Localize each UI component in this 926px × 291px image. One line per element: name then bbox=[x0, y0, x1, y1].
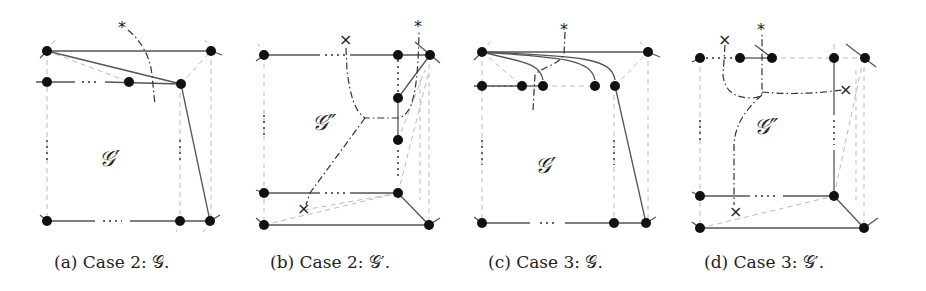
region-label: 𝒢″ bbox=[754, 114, 779, 139]
node bbox=[393, 188, 403, 198]
node bbox=[590, 81, 600, 91]
cross-marker: × bbox=[297, 199, 310, 218]
node bbox=[393, 135, 403, 145]
node bbox=[42, 216, 52, 226]
node bbox=[829, 53, 839, 63]
node bbox=[259, 220, 269, 230]
node bbox=[424, 220, 434, 230]
caption-c: (c) Case 3: 𝒢. bbox=[488, 252, 603, 272]
node bbox=[259, 188, 269, 198]
node bbox=[124, 77, 134, 87]
node bbox=[859, 223, 869, 233]
node bbox=[393, 93, 403, 103]
cut-curve bbox=[762, 90, 842, 93]
cross-marker: × bbox=[718, 30, 731, 49]
region-label: 𝒢′ bbox=[535, 153, 556, 178]
caption-d: (d) Case 3: 𝒢′. bbox=[704, 252, 824, 272]
star-marker: * bbox=[757, 20, 765, 39]
node bbox=[259, 50, 269, 60]
cut-curve bbox=[734, 95, 762, 205]
star-marker: * bbox=[560, 20, 568, 39]
cross-marker: × bbox=[339, 30, 352, 49]
node bbox=[175, 216, 185, 226]
node bbox=[393, 50, 403, 60]
node bbox=[425, 50, 435, 60]
cross-marker: × bbox=[729, 202, 742, 221]
region-label: 𝒢′ bbox=[99, 146, 120, 171]
caption-b: (b) Case 2: 𝒢′. bbox=[270, 252, 390, 272]
node bbox=[695, 223, 705, 233]
region-label: 𝒢″ bbox=[312, 110, 337, 135]
cut-curve bbox=[128, 30, 155, 105]
panel-b: × × * 𝒢″ (b) Case 2: 𝒢′. bbox=[256, 17, 440, 272]
node bbox=[829, 191, 839, 201]
node bbox=[643, 47, 653, 57]
panel-c: * 𝒢′ (c) Case 3: 𝒢. bbox=[474, 20, 660, 272]
star-marker: * bbox=[118, 18, 126, 37]
node bbox=[735, 53, 745, 63]
cross-marker: × bbox=[839, 80, 852, 99]
panel-a: * 𝒢′ (a) Case 2: 𝒢. bbox=[36, 18, 222, 272]
figure-canvas: * 𝒢′ (a) Case 2: 𝒢. bbox=[0, 0, 926, 291]
node bbox=[860, 53, 870, 63]
panel-d: × × × * 𝒢″ (d) Case 3: 𝒢′. bbox=[692, 20, 878, 272]
node bbox=[42, 77, 52, 87]
node bbox=[205, 216, 215, 226]
node bbox=[767, 53, 777, 63]
caption-a: (a) Case 2: 𝒢. bbox=[54, 252, 170, 272]
node bbox=[517, 81, 527, 91]
node bbox=[477, 218, 487, 228]
node bbox=[477, 47, 487, 57]
node bbox=[609, 218, 619, 228]
node bbox=[538, 81, 548, 91]
node bbox=[610, 81, 620, 91]
node bbox=[42, 46, 52, 56]
node bbox=[206, 46, 216, 56]
node bbox=[641, 218, 651, 228]
star-marker: * bbox=[414, 17, 422, 36]
node bbox=[695, 53, 705, 63]
cut-curve bbox=[346, 30, 419, 118]
node bbox=[477, 81, 487, 91]
node bbox=[176, 79, 186, 89]
cut-curve bbox=[533, 32, 565, 110]
node bbox=[695, 191, 705, 201]
